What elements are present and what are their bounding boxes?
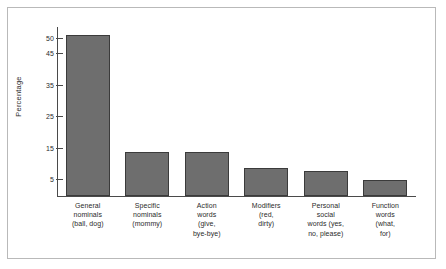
y-axis-tick-mark <box>56 85 63 86</box>
y-axis-tick-mark <box>56 116 63 117</box>
x-axis-category-label: Function words (what, for) <box>351 201 421 238</box>
y-axis-tick: 15 <box>33 144 63 154</box>
y-axis-tick-label: 5 <box>34 175 54 185</box>
x-axis-line <box>57 196 416 197</box>
bar <box>244 168 288 196</box>
bar <box>66 35 110 196</box>
y-axis-tick-mark <box>56 38 63 39</box>
bar <box>125 152 169 196</box>
y-axis-tick-label: 50 <box>34 34 54 44</box>
y-axis-tick-mark <box>56 148 63 149</box>
y-axis-tick-label: 45 <box>34 49 54 59</box>
bar <box>363 180 407 196</box>
y-axis-tick-label: 15 <box>34 144 54 154</box>
bar <box>304 171 348 196</box>
y-axis-tick-label: 25 <box>34 112 54 122</box>
y-axis-tick: 35 <box>33 81 63 91</box>
y-axis-tick-mark <box>56 179 63 180</box>
y-axis-tick: 45 <box>33 49 63 59</box>
y-axis-tick-mark <box>56 53 63 54</box>
figure: Percentage 51525354550 General nominals … <box>0 0 446 269</box>
y-axis-tick: 5 <box>33 175 63 185</box>
y-axis-tick: 25 <box>33 112 63 122</box>
y-axis-title: Percentage <box>14 62 23 132</box>
y-axis-tick: 50 <box>33 34 63 44</box>
y-axis-tick-label: 35 <box>34 81 54 91</box>
bar <box>185 152 229 196</box>
plot-area: Percentage 51525354550 General nominals … <box>0 0 446 269</box>
